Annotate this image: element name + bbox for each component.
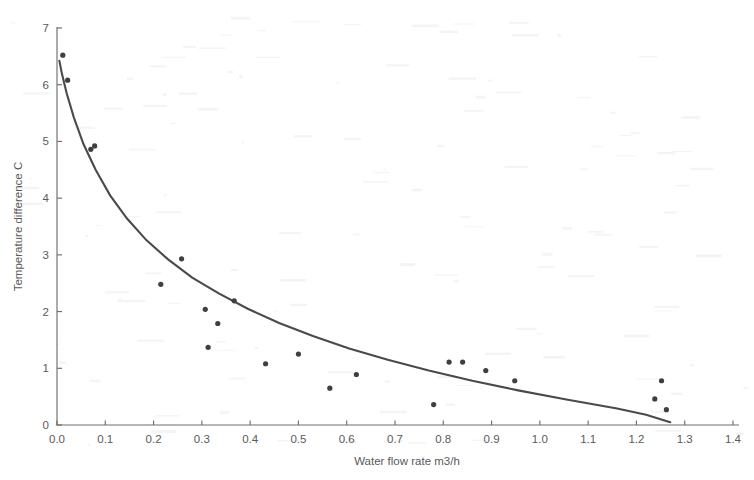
data-point (431, 402, 436, 407)
y-tick-label: 5 (43, 135, 49, 147)
x-tick-label: 0.8 (435, 433, 451, 445)
data-point (460, 359, 465, 364)
x-tick-label: 1.1 (580, 433, 596, 445)
data-point (203, 307, 208, 312)
data-point (65, 78, 70, 83)
x-tick-label: 0.6 (339, 433, 355, 445)
data-point (659, 378, 664, 383)
x-tick-label: 0.2 (146, 433, 162, 445)
y-tick-label: 1 (43, 362, 49, 374)
x-tick-label: 0.0 (49, 433, 65, 445)
data-point (215, 321, 220, 326)
x-axis-title: Water flow rate m3/h (354, 455, 460, 467)
y-tick-label: 6 (43, 79, 49, 91)
data-point (232, 298, 237, 303)
data-point (483, 368, 488, 373)
data-point (92, 143, 97, 148)
data-point (60, 53, 65, 58)
x-tick-label: 0.7 (387, 433, 403, 445)
y-tick-label: 7 (43, 22, 49, 34)
x-tick-label: 0.3 (194, 433, 210, 445)
data-point (327, 386, 332, 391)
data-point (354, 372, 359, 377)
data-point (664, 407, 669, 412)
y-tick-label: 2 (43, 306, 49, 318)
x-tick-label: 1.0 (532, 433, 548, 445)
data-point (296, 352, 301, 357)
data-point (263, 361, 268, 366)
x-tick-label: 1.4 (725, 433, 742, 445)
chart-background (0, 0, 754, 480)
chart-canvas: 0.00.10.20.30.40.50.60.70.80.91.01.11.21… (0, 0, 754, 480)
data-point (206, 345, 211, 350)
x-tick-label: 0.4 (242, 433, 259, 445)
scatter-chart: 0.00.10.20.30.40.50.60.70.80.91.01.11.21… (0, 0, 754, 480)
y-axis-title: Temperature difference C (12, 162, 24, 292)
x-tick-label: 0.1 (97, 433, 113, 445)
data-point (179, 256, 184, 261)
x-tick-label: 1.2 (628, 433, 644, 445)
y-tick-label: 0 (43, 419, 49, 431)
y-tick-label: 3 (43, 249, 49, 261)
data-point (158, 282, 163, 287)
x-tick-label: 0.9 (484, 433, 500, 445)
x-tick-label: 0.5 (290, 433, 306, 445)
x-tick-label: 1.3 (677, 433, 693, 445)
data-point (446, 359, 451, 364)
y-tick-label: 4 (43, 192, 50, 204)
data-point (512, 378, 517, 383)
data-point (652, 396, 657, 401)
